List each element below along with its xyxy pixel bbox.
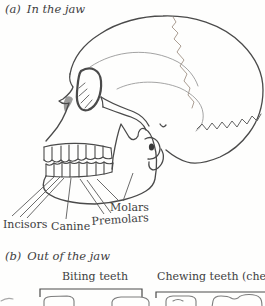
ear-canal (149, 143, 154, 150)
incisors-pointer (12, 176, 55, 216)
tooth-outline-incisor (44, 296, 74, 306)
lambdoid-suture (197, 114, 261, 130)
incisors-label: Incisors (3, 219, 47, 230)
premolars-pointer (87, 180, 111, 213)
skull-outline-group (43, 16, 263, 204)
brow-nasal-profile (46, 74, 73, 141)
eye-socket-shading (79, 83, 92, 108)
section-a-label: (a) (5, 2, 21, 16)
ear-notch (160, 124, 166, 127)
zygomatic-arch-upper (101, 97, 149, 126)
cranium-outline (70, 16, 263, 163)
section-a-heading: (a)In the jaw (5, 4, 85, 16)
canine-label: Canine (51, 221, 90, 232)
suture-lines (90, 17, 261, 131)
zygomatic-arch-lower (103, 107, 146, 130)
section-b-label: (b) (5, 249, 21, 263)
nasal-aperture (64, 96, 73, 112)
biting-teeth-label: Biting teeth (62, 271, 128, 282)
incisors-pointer (27, 178, 64, 218)
section-a-title: In the jaw (27, 2, 85, 16)
section-b-title: Out of the jaw (27, 249, 110, 263)
premolars-pointer (80, 179, 104, 214)
canine-pointer (66, 178, 71, 219)
chewing-teeth-label: Chewing teeth (cheek (157, 271, 265, 282)
partial-shape-left-edge (1, 298, 13, 301)
group-brackets (40, 289, 265, 298)
biting-teeth-bracket (40, 289, 142, 297)
lower-teeth (46, 162, 113, 177)
figure: (a)In the jaw Molars Incisors Canine Pre… (0, 0, 265, 306)
tooth-outline-canine (112, 297, 149, 306)
section-b-heading: (b)Out of the jaw (5, 251, 110, 263)
tooth-outline-molar (212, 295, 262, 306)
tooth-outline-premolar (166, 296, 196, 306)
molars-pointer (123, 173, 133, 201)
premolar-cusp-line (173, 300, 183, 302)
upper-teeth (44, 143, 112, 162)
